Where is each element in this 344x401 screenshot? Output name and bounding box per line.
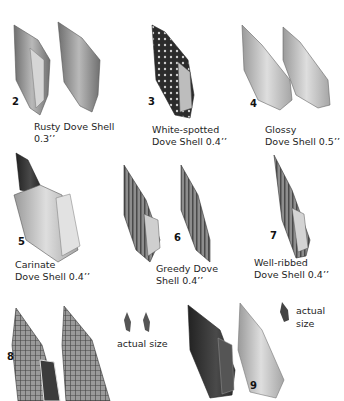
- caption-actual-size-8: actual size: [117, 338, 168, 350]
- shell-7-illustration: [274, 155, 310, 258]
- caption-white-spotted-dove-shell: White-spotted Dove Shell 0.4’’: [152, 124, 227, 148]
- actual-size-shell: [280, 302, 289, 322]
- shell-6-illustration: [124, 165, 210, 262]
- actual-size-shell-b: [143, 312, 150, 332]
- specimen-number: 9: [250, 380, 257, 391]
- caption-greedy-dove-shell: Greedy Dove Shell 0.4’’: [156, 263, 218, 287]
- specimen-number: 3: [148, 96, 155, 107]
- caption-actual-size-9: actual size: [296, 304, 325, 330]
- specimen-number: 6: [174, 232, 181, 243]
- specimen-number: 4: [250, 98, 257, 109]
- caption-glossy-dove-shell: Glossy Dove Shell 0.5’’: [265, 124, 340, 148]
- shell-2-illustration: [14, 22, 100, 115]
- caption-well-ribbed-dove-shell: Well-ribbed Dove Shell 0.4’’: [254, 257, 329, 281]
- shell-8-illustration: [12, 306, 150, 401]
- specimen-number: 5: [18, 236, 25, 247]
- shell-9-illustration: [188, 302, 289, 398]
- shell-3-illustration: [152, 25, 194, 118]
- specimen-number: 8: [7, 351, 14, 362]
- caption-carinate-dove-shell: Carinate Dove Shell 0.4’’: [15, 259, 90, 283]
- specimen-number: 7: [270, 230, 277, 241]
- specimen-number: 2: [12, 96, 19, 107]
- caption-rusty-dove-shell: Rusty Dove Shell 0.3’’: [34, 121, 114, 145]
- actual-size-shell-a: [124, 312, 131, 332]
- shell-illustrations: [0, 0, 344, 401]
